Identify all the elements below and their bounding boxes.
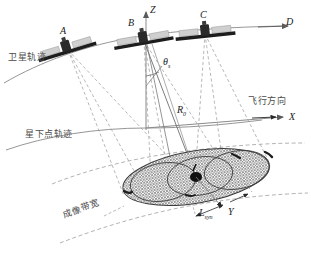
label-axis-y: Y <box>228 207 234 217</box>
satellite-imaging-diagram: A B C D Z X Y θs R0 Lsyn 卫星轨迹 星下点轨迹 飞行方向… <box>0 0 311 265</box>
label-axis-z: Z <box>150 5 156 15</box>
swath-width-leader <box>104 206 124 216</box>
label-slant-range: R0 <box>177 105 186 117</box>
footprint-length-subscript: syn <box>205 214 213 220</box>
lsyn-secondary-arrow <box>230 194 248 202</box>
satellite-c-antenna <box>202 21 206 25</box>
label-orbit-track-cn: 卫星轨迹 <box>8 53 46 62</box>
label-look-angle: θs <box>163 57 170 69</box>
label-satellite-c: C <box>200 10 207 20</box>
satellite-b-antenna <box>139 28 144 33</box>
satellite-b <box>112 23 174 50</box>
axis-x-line <box>146 117 283 128</box>
look-angle-subscript: s <box>168 63 170 69</box>
label-satellite-b: B <box>128 18 134 28</box>
axis-x-group <box>146 117 283 128</box>
satellite-c-solar-panel-left <box>179 29 199 37</box>
beam-a-left <box>68 50 124 196</box>
swath-label-leader-group <box>104 206 124 216</box>
satellite-b-body <box>137 31 148 43</box>
label-axis-x: X <box>289 112 295 122</box>
satellite-c-body <box>200 24 210 36</box>
satellite-c-solar-panel-right <box>212 25 232 33</box>
swath-edge-accent-bottom <box>186 195 195 196</box>
satellite-c <box>174 18 235 41</box>
label-satellite-a: A <box>60 26 66 36</box>
slant-range-subscript: 0 <box>183 111 186 117</box>
label-ground-track-cn: 星下点轨迹 <box>25 130 73 139</box>
label-orbit-direction-d: D <box>286 17 293 27</box>
label-footprint-length: Lsyn <box>199 208 213 220</box>
label-flight-direction-cn: 飞行方向 <box>248 97 286 106</box>
